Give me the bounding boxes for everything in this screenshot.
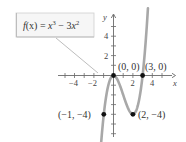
x-tick-label: 4 [150, 78, 155, 88]
point-root-3 [140, 73, 145, 78]
function-label-box: f(x) = x3 − 3x2 [16, 13, 94, 37]
label-origin: (0, 0) [118, 61, 140, 73]
label-leader-line [56, 38, 98, 73]
y-tick-label: 2 [104, 51, 108, 61]
x-axis-label: x [172, 78, 177, 88]
label-root-3: (3, 0) [145, 61, 167, 73]
y-tick-label: 4 [104, 31, 109, 41]
label-minus1-minus4: (−1, −4) [58, 109, 91, 121]
point-2-minus4 [131, 112, 136, 117]
label-2-minus4: (2, −4) [138, 109, 165, 121]
x-tick-label: 2 [131, 78, 135, 88]
point-minus1-minus4 [101, 112, 106, 117]
x-tick-label: −2 [88, 78, 97, 88]
function-label: f(x) = x3 − 3x2 [23, 19, 79, 32]
point-origin [111, 73, 116, 78]
x-tick-label: −4 [69, 78, 79, 88]
y-axis-label: y [102, 12, 107, 22]
function-graph: f(x) = x3 − 3x2 −4 −2 2 4 x [0, 0, 186, 142]
